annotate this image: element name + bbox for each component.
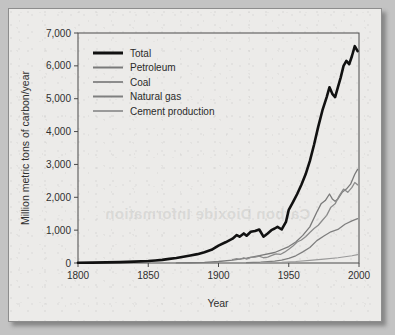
legend-label-petroleum: Petroleum — [130, 62, 176, 73]
series-line-natural-gas — [247, 219, 358, 263]
series-line-total — [78, 46, 358, 263]
figure-card: Carbon Dioxide Information 01,0002,0003,… — [8, 8, 382, 322]
x-tick-label: 2000 — [348, 270, 371, 281]
series-line-coal — [233, 183, 358, 260]
x-axis-title: Year — [207, 297, 229, 309]
chart-legend: TotalPetroleumCoalNatural gasCement prod… — [93, 48, 215, 117]
x-tick-label: 1850 — [137, 270, 160, 281]
data-series-group — [78, 46, 358, 263]
y-tick-label: 1,000 — [46, 225, 71, 236]
emissions-line-chart: 01,0002,0003,0004,0005,0006,0007,000 180… — [9, 9, 381, 321]
y-axis-title: Million metric tons of carbon/year — [19, 70, 31, 225]
x-tick-label: 1800 — [67, 270, 90, 281]
x-tick-label: 1900 — [207, 270, 230, 281]
y-tick-label: 0 — [65, 258, 71, 269]
y-tick-label: 7,000 — [46, 28, 71, 39]
figure-root: Carbon Dioxide Information 01,0002,0003,… — [0, 0, 395, 335]
y-tick-label: 5,000 — [46, 93, 71, 104]
y-tick-label: 6,000 — [46, 60, 71, 71]
y-tick-label: 3,000 — [46, 159, 71, 170]
y-axis-ticks: 01,0002,0003,0004,0005,0006,0007,000 — [46, 28, 78, 269]
x-tick-label: 1950 — [278, 270, 301, 281]
series-line-petroleum — [176, 169, 357, 263]
legend-label-cement-production: Cement production — [130, 106, 215, 117]
legend-label-coal: Coal — [130, 77, 151, 88]
legend-label-natural-gas: Natural gas — [130, 91, 181, 102]
y-tick-label: 2,000 — [46, 192, 71, 203]
y-tick-label: 4,000 — [46, 126, 71, 137]
x-axis-ticks: 18001850190019502000 — [67, 263, 371, 281]
legend-label-total: Total — [130, 48, 151, 59]
